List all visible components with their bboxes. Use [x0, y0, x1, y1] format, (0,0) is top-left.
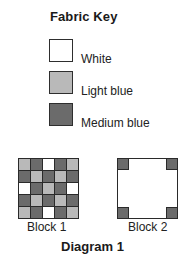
block-1-cell — [55, 159, 66, 170]
block-1-cell — [19, 183, 30, 194]
block-1-cell — [43, 159, 54, 170]
block-1-cell — [31, 195, 42, 206]
block-1-cell — [31, 183, 42, 194]
block-1-cell — [19, 171, 30, 182]
block-1-cell — [55, 183, 66, 194]
block-2 — [117, 158, 178, 219]
block-1-cell — [67, 207, 78, 218]
swatch-label-medium-blue: Medium blue — [81, 116, 150, 130]
block-2-corner-bottom-left — [117, 207, 129, 219]
block-1-cell — [31, 159, 42, 170]
block-1-cell — [55, 171, 66, 182]
block-1-cell — [67, 171, 78, 182]
block-1-cell — [55, 195, 66, 206]
swatch-label-light-blue: Light blue — [81, 84, 133, 98]
diagram-caption: Diagram 1 — [61, 239, 124, 254]
fabric-key-title: Fabric Key — [50, 9, 117, 24]
block-1-cell — [55, 207, 66, 218]
block-1-cell — [19, 207, 30, 218]
swatch-medium-blue — [49, 103, 73, 126]
block-1-cell — [43, 171, 54, 182]
block-1-cell — [19, 159, 30, 170]
block-1-cell — [67, 183, 78, 194]
block-1-label: Block 1 — [27, 220, 66, 234]
block-2-corner-top-right — [166, 158, 178, 170]
block-1-cell — [43, 183, 54, 194]
block-2-label: Block 2 — [128, 220, 167, 234]
block-1-cell — [31, 171, 42, 182]
block-1-grid — [18, 158, 79, 219]
block-1-cell — [67, 159, 78, 170]
block-1-cell — [67, 195, 78, 206]
block-1-cell — [31, 207, 42, 218]
swatch-light-blue — [49, 71, 73, 94]
swatch-white — [49, 39, 73, 62]
block-1-cell — [43, 207, 54, 218]
swatch-label-white: White — [81, 52, 112, 66]
block-2-corner-bottom-right — [166, 207, 178, 219]
block-1-cell — [19, 195, 30, 206]
block-2-corner-top-left — [117, 158, 129, 170]
block-1-cell — [43, 195, 54, 206]
